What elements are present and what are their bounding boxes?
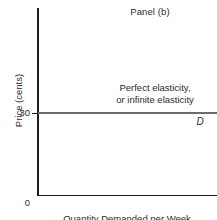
elasticity-annotation: Perfect elasticity, or infinite elastici… xyxy=(96,82,214,105)
demand-curve-line xyxy=(38,112,217,115)
demand-curve-label: D xyxy=(190,116,210,127)
y-axis-line xyxy=(37,8,39,196)
y-tick-label-30: 30 xyxy=(0,107,30,118)
elasticity-annotation-line-1: Perfect elasticity, xyxy=(96,82,214,94)
x-axis-title: Quantity Demanded per Week xyxy=(37,213,217,220)
chart-figure: Panel (b) Price (cents) 30 0 Perfect ela… xyxy=(0,0,217,220)
elasticity-annotation-line-2: or infinite elasticity xyxy=(96,94,214,106)
x-axis-line xyxy=(37,195,217,197)
origin-label: 0 xyxy=(8,197,30,208)
panel-title: Panel (b) xyxy=(90,6,210,17)
y-axis-title: Price (cents) xyxy=(13,46,24,156)
